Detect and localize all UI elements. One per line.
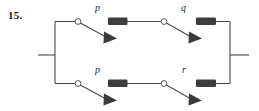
switch-arrow-icon: [189, 32, 203, 44]
circuit-block-bottom-left: [108, 80, 128, 88]
switch-pivot-icon[interactable]: [161, 81, 167, 87]
switch-label-bottom-right: r: [182, 64, 186, 75]
switch-label-top-right: q: [181, 2, 186, 13]
circuit-diagram: [0, 0, 259, 111]
switch-blade-line[interactable]: [166, 85, 192, 100]
switch-pivot-icon[interactable]: [161, 19, 167, 25]
switch-blade-line[interactable]: [80, 85, 107, 100]
switch-arrow-icon: [189, 94, 203, 106]
switch-bottom-right[interactable]: [161, 81, 202, 106]
circuit-block-top-left: [108, 18, 128, 26]
switch-pivot-icon[interactable]: [75, 19, 81, 25]
circuit-block-bottom-right: [196, 80, 216, 88]
switch-arrow-icon: [104, 94, 118, 106]
figure-container: 15.: [0, 0, 259, 111]
switch-label-top-left: p: [95, 2, 100, 13]
switch-pivot-icon[interactable]: [75, 81, 81, 87]
switch-label-bottom-left: p: [95, 64, 100, 75]
switch-top-right[interactable]: [161, 19, 202, 44]
circuit-block-top-right: [196, 18, 216, 26]
switch-arrow-icon: [104, 32, 118, 44]
switch-blade-line[interactable]: [166, 23, 192, 38]
switch-blade-line[interactable]: [80, 23, 107, 38]
circuit-wires: [38, 22, 249, 84]
